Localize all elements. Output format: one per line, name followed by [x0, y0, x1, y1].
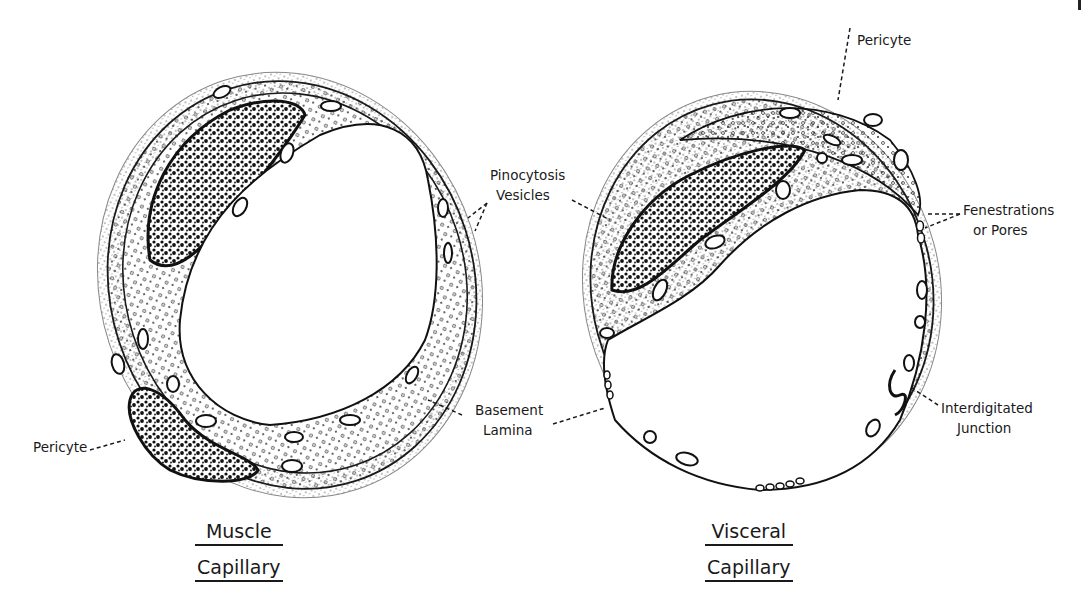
title-visceral-capillary: Visceral Capillary	[705, 518, 793, 590]
title-muscle-capillary: Muscle Capillary	[195, 518, 283, 590]
label-basement-lamina: Basement Lamina	[475, 400, 543, 440]
capillary-figure: Pericyte Pericyte Pinocytosis Vesicles B…	[0, 0, 1083, 604]
label-pinocytosis-vesicles: Pinocytosis Vesicles	[490, 165, 565, 205]
label-fenestrations-or-pores: Fenestrations or Pores	[963, 200, 1054, 240]
label-pericyte-top: Pericyte	[857, 30, 911, 50]
diagram-canvas	[0, 0, 1083, 604]
muscle-capillary-drawing	[43, 22, 537, 548]
label-interdigitated-junction: Interdigitated Junction	[941, 398, 1033, 438]
label-pericyte-left: Pericyte	[33, 437, 87, 457]
visceral-capillary-drawing	[538, 51, 985, 530]
